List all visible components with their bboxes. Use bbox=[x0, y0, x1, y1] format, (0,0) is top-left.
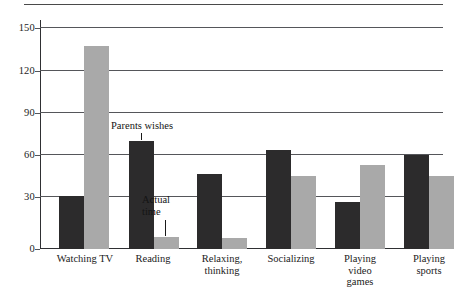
plot-area: 150 120 90 60 30 0 Watching TV Reading bbox=[40, 20, 443, 249]
bar-sports-parents-wishes bbox=[404, 155, 429, 249]
y-tick-60: 60 bbox=[24, 150, 35, 161]
top-rule bbox=[24, 4, 443, 5]
tick-stub-30 bbox=[35, 197, 40, 198]
y-tick-0: 0 bbox=[30, 244, 35, 255]
annotation-parents-wishes-leader bbox=[141, 133, 142, 140]
bar-relaxing-parents-wishes bbox=[197, 174, 222, 249]
bar-socializing-parents-wishes bbox=[266, 150, 291, 249]
bar-video-games-actual-time bbox=[360, 165, 385, 249]
y-tick-150: 150 bbox=[19, 23, 35, 34]
bar-reading-actual-time bbox=[154, 237, 179, 249]
bar-chart: 150 120 90 60 30 0 Watching TV Reading bbox=[0, 0, 461, 292]
tick-stub-150 bbox=[35, 28, 40, 29]
bar-sports-actual-time bbox=[429, 176, 454, 249]
annotation-actual-time: Actual time bbox=[142, 194, 182, 218]
gridline-150: 150 bbox=[40, 27, 443, 28]
y-tick-120: 120 bbox=[19, 66, 35, 77]
tick-stub-90 bbox=[35, 113, 40, 114]
bar-socializing-actual-time bbox=[291, 176, 316, 249]
bar-watching-tv-actual-time bbox=[84, 46, 109, 249]
y-axis-line bbox=[40, 20, 41, 249]
y-tick-90: 90 bbox=[24, 108, 35, 119]
footer-cut-text bbox=[0, 286, 461, 292]
tick-stub-60 bbox=[35, 155, 40, 156]
category-label-playing-sports: Playing sports bbox=[384, 253, 461, 276]
tick-stub-0 bbox=[35, 249, 40, 250]
tick-stub-120 bbox=[35, 71, 40, 72]
annotation-parents-wishes: Parents wishes bbox=[111, 120, 173, 132]
y-tick-30: 30 bbox=[24, 192, 35, 203]
bar-relaxing-actual-time bbox=[222, 238, 247, 249]
bar-watching-tv-parents-wishes bbox=[59, 196, 84, 249]
bar-video-games-parents-wishes bbox=[335, 202, 360, 249]
annotation-actual-time-leader bbox=[165, 220, 166, 236]
